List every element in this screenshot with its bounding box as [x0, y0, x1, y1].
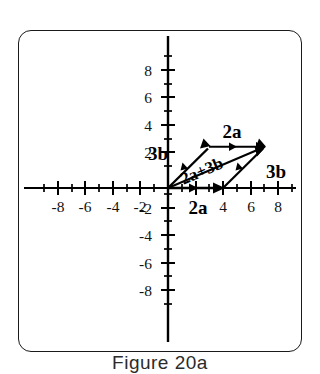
figure-caption: Figure 20a: [0, 352, 320, 374]
y-tick-label-4: 4: [144, 117, 152, 134]
y-axis-tick-labels: 8 6 4 2 -2 -4 -6 -8: [139, 62, 152, 299]
x-tick-label-4: 4: [219, 198, 227, 215]
y-tick-label-neg6: -6: [139, 255, 152, 272]
vector-label-resultant: 2a+3b: [178, 153, 227, 188]
axes-group: [24, 36, 296, 342]
x-tick-label-neg8: -8: [52, 198, 65, 215]
x-tick-label-6: 6: [247, 198, 255, 215]
y-tick-label-6: 6: [144, 89, 152, 106]
vector-label-2a-top: 2a: [223, 121, 243, 142]
x-tick-label-neg6: -6: [79, 198, 92, 215]
y-tick-label-neg2: -2: [139, 200, 152, 217]
vector-label-3b-right: 3b: [266, 161, 286, 182]
x-tick-label-8: 8: [274, 198, 282, 215]
y-tick-label-neg4: -4: [139, 227, 152, 244]
x-tick-label-2a: 2a: [189, 197, 209, 218]
vector-label-3b-left: 3b: [148, 143, 168, 164]
x-tick-label-neg4: -4: [107, 198, 120, 215]
y-tick-label-neg8: -8: [139, 282, 152, 299]
vector-diagram: -8 -6 -4 -2 2a 4 6 8 8 6 4 2 -2 -4 -6 -8: [18, 30, 302, 352]
y-tick-label-8: 8: [144, 62, 152, 79]
